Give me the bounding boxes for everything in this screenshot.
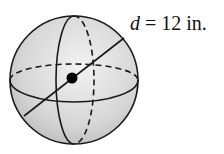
diameter-unit: in.	[181, 12, 207, 34]
diameter-value: 12	[161, 12, 181, 34]
diameter-variable: d	[130, 12, 140, 34]
equals-sign: =	[140, 12, 161, 34]
center-point	[67, 73, 78, 84]
diameter-label: d = 12 in.	[130, 12, 207, 35]
